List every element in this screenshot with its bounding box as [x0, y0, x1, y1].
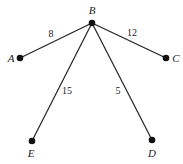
node-c [163, 55, 170, 62]
node-e [29, 138, 36, 145]
edge-weight-b-d: 5 [116, 85, 121, 96]
edge-b-d [92, 23, 152, 140]
tree-diagram: 8 12 15 5 B A C E D [0, 0, 183, 164]
node-label-e: E [27, 147, 35, 159]
edge-weight-b-e: 15 [62, 85, 72, 96]
edge-b-e [32, 23, 92, 141]
node-label-c: C [172, 52, 180, 64]
node-a [17, 55, 24, 62]
node-d [149, 137, 156, 144]
node-labels-group: B A C E D [7, 4, 181, 159]
edge-b-a [20, 23, 92, 58]
node-label-d: D [147, 147, 156, 159]
edges-group [20, 23, 166, 141]
node-label-a: A [7, 52, 15, 64]
node-label-b: B [89, 4, 96, 16]
edge-weight-b-c: 12 [127, 27, 137, 38]
node-b [89, 20, 96, 27]
edge-weight-b-a: 8 [49, 28, 54, 39]
